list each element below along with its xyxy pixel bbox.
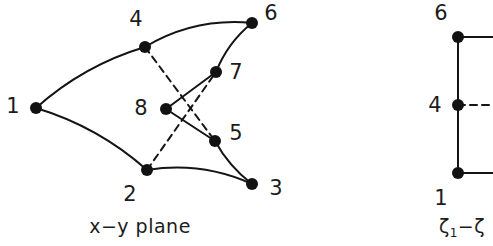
node-dot-group [30,17,464,190]
node-label-left-1: 1 [6,96,19,117]
node-dot [209,135,221,147]
node-dot [30,102,42,114]
right-panel-caption: ζ1−ζ [439,217,485,240]
solid-edge [36,47,145,108]
caption-dash: − [458,215,474,237]
node-label-left-4: 4 [129,9,142,30]
node-dot [160,103,172,115]
node-label-right-1: 1 [434,188,447,209]
mesh-diagram-svg [0,0,493,246]
node-label-left-2: 2 [123,184,136,205]
dashed-edge [147,72,216,170]
node-dot [139,41,151,53]
zeta-first-glyph: ζ [439,215,450,237]
solid-edge-group [36,22,493,184]
node-dot [141,164,153,176]
figure-root: 12345678641 x−y plane ζ1−ζ [0,0,493,246]
node-label-left-8: 8 [134,98,147,119]
zeta-first-subscript: 1 [450,226,458,240]
dashed-edge [145,47,215,141]
node-label-left-6: 6 [264,3,277,24]
solid-edge [166,72,216,109]
solid-edge [145,22,252,47]
node-label-left-7: 7 [229,62,242,83]
solid-edge [166,109,215,141]
node-dot [452,99,464,111]
node-dot [246,17,258,29]
node-label-left-3: 3 [269,178,282,199]
node-dot [452,31,464,43]
node-dot [246,178,258,190]
node-label-right-6: 6 [434,3,447,24]
node-label-left-5: 5 [229,123,242,144]
left-panel-caption: x−y plane [89,217,191,236]
node-dot [210,66,222,78]
zeta-second-glyph: ζ [474,215,485,237]
node-dot [452,167,464,179]
solid-edge [36,108,147,170]
node-label-right-4: 4 [428,95,441,116]
